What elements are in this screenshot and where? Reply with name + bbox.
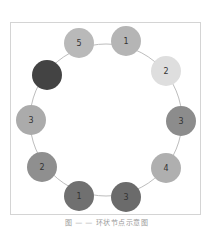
node-label: 3 <box>28 116 33 125</box>
node-label: 5 <box>76 39 81 48</box>
node-label: 3 <box>178 117 183 126</box>
node-group: 512343123 <box>16 26 196 212</box>
ring-diagram: 512343123 <box>0 0 213 227</box>
node-circle <box>32 60 62 90</box>
node-label: 1 <box>76 192 81 201</box>
node-label: 2 <box>163 67 168 76</box>
figure-caption: 图 — — 环状节点示意图 <box>0 217 213 227</box>
node-label: 4 <box>163 164 168 173</box>
node-label: 2 <box>39 163 44 172</box>
node-label: 1 <box>123 37 128 46</box>
node-label: 3 <box>123 193 128 202</box>
